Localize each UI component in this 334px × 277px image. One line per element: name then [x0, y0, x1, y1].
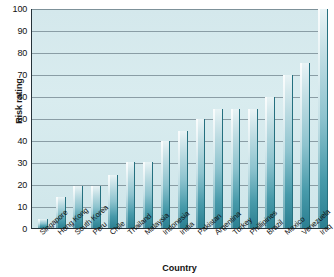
bar	[300, 63, 310, 228]
y-axis-tick-labels: 0102030405060708090100	[0, 0, 29, 277]
risk-rating-bar-chart: Risk rating 0102030405060708090100 Singa…	[0, 0, 334, 277]
plot-area	[31, 9, 328, 229]
x-axis-title: Country	[31, 263, 328, 273]
y-tick-label: 10	[17, 202, 27, 212]
bar	[213, 109, 223, 228]
y-tick-label: 100	[13, 4, 27, 14]
bar	[108, 175, 118, 228]
y-tick-label: 40	[17, 136, 27, 146]
bar	[126, 162, 136, 228]
bar	[283, 75, 293, 228]
y-tick-label: 0	[22, 224, 27, 234]
bar	[196, 119, 206, 228]
y-tick-label: 90	[17, 26, 27, 36]
y-tick-label: 20	[17, 180, 27, 190]
y-tick-label: 70	[17, 70, 27, 80]
y-tick-label: 60	[17, 92, 27, 102]
bar	[248, 109, 258, 228]
bar-series	[32, 9, 328, 228]
y-tick-label: 30	[17, 158, 27, 168]
y-tick-label: 50	[17, 114, 27, 124]
y-tick-label: 80	[17, 48, 27, 58]
bar	[318, 9, 328, 228]
